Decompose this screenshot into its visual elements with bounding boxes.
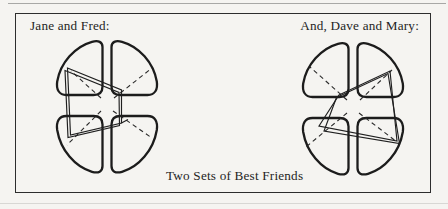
quadrant-top-left <box>303 43 349 97</box>
axis-ray-top-right <box>114 68 152 98</box>
glyph-jane-fred <box>47 30 167 180</box>
quadrant-top-right <box>112 41 158 95</box>
page-bottom-rule <box>0 203 448 204</box>
quadrants <box>57 41 157 172</box>
figure-caption: Two Sets of Best Friends <box>166 169 303 183</box>
profile-polygon-jane <box>68 68 122 135</box>
right-glyph-label: And, Dave and Mary: <box>300 19 419 33</box>
glyph-dave-mary <box>293 32 413 182</box>
friend-profiles <box>65 68 128 138</box>
quadrant-bottom-left <box>57 116 103 172</box>
scanned-figure-page: Jane and Fred: And, Dave and Mary: Two S… <box>0 0 448 209</box>
quadrant-top-right <box>358 43 404 97</box>
page-top-rule <box>8 3 446 4</box>
quadrants <box>303 43 403 174</box>
quadrant-axis-rays <box>67 68 152 145</box>
friend-profiles <box>319 71 400 144</box>
quadrant-bottom-right <box>112 116 158 172</box>
quadrant-top-left <box>57 41 103 95</box>
